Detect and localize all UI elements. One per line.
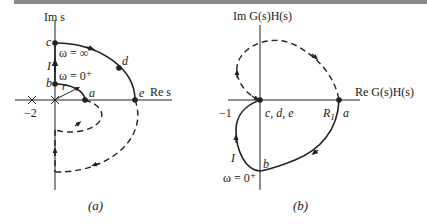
radius-arrow-icon <box>56 88 78 99</box>
axis-label-re-gh: Re G(s)H(s) <box>355 85 414 99</box>
caption-a: (a) <box>88 198 103 213</box>
point-a-b <box>336 97 342 103</box>
label-omega-0: ω = 0⁺ <box>223 171 256 185</box>
label-b: b <box>46 76 52 90</box>
label-I: I <box>46 59 52 73</box>
panel-a: Im s Re s −2 c b a d e I r ω = ∞ ω = 0⁺ … <box>15 10 172 213</box>
label-c: c <box>46 35 52 49</box>
tick-minus-1: −1 <box>219 106 232 120</box>
label-cde: c, d, e <box>265 106 294 120</box>
contour-small-arc-lower <box>55 100 102 132</box>
point-a <box>82 97 88 103</box>
arrow-icon <box>314 150 318 153</box>
caption-b: (b) <box>293 198 308 213</box>
point-b <box>52 81 58 87</box>
label-a: a <box>343 106 349 120</box>
axis-label-re-s: Re s <box>150 85 171 99</box>
label-I: I <box>230 151 236 165</box>
panel-b: Im G(s)H(s) Re G(s)H(s) −1 c, d, e R1 a … <box>219 9 414 213</box>
point-e <box>132 97 138 103</box>
point-d <box>116 65 122 71</box>
label-omega-0: ω = 0⁺ <box>59 69 92 83</box>
axis-label-im-gh: Im G(s)H(s) <box>233 9 292 23</box>
label-R1: R1 <box>322 106 335 122</box>
point-c <box>52 40 58 46</box>
nyquist-solid-branch-I <box>236 100 260 171</box>
label-b: b <box>263 157 269 171</box>
nyquist-dashed-branch <box>237 40 339 100</box>
label-a: a <box>89 86 95 100</box>
label-e: e <box>139 86 145 100</box>
point-cde <box>257 97 263 103</box>
label-omega-inf: ω = ∞ <box>59 46 88 60</box>
axis-label-im-s: Im s <box>44 10 65 24</box>
tick-minus-2: −2 <box>24 106 37 120</box>
arrow-icon <box>75 123 79 126</box>
label-d: d <box>122 54 129 68</box>
arrow-icon <box>252 96 257 99</box>
nyquist-figure: Im s Re s −2 c b a d e I r ω = ∞ ω = 0⁺ … <box>0 0 427 224</box>
contour-large-arc-lower <box>55 100 138 172</box>
